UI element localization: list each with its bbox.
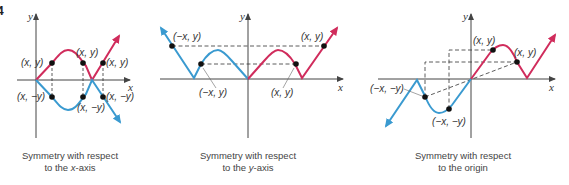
point-label: (x, y) bbox=[271, 87, 293, 98]
y-axis-label: y bbox=[27, 10, 33, 22]
caption-origin-symmetry: Symmetry with respect to the origin bbox=[383, 150, 543, 174]
point-label: (x, y) bbox=[21, 57, 43, 68]
caption-line: to the origin bbox=[383, 162, 543, 174]
y-axis-label: y bbox=[239, 10, 245, 22]
point-label: (−x, −y) bbox=[432, 116, 466, 127]
point bbox=[422, 94, 428, 100]
caption-y-axis-symmetry: Symmetry with respect to the y-axis bbox=[168, 150, 328, 174]
caption-text: -axis bbox=[254, 162, 274, 173]
y-axis-label: y bbox=[462, 10, 468, 22]
point bbox=[490, 47, 496, 53]
panel-y-axis-symmetry: y x (−x, y) (x, y) (−x, y) (x, y) bbox=[160, 10, 343, 138]
caption-text: to the bbox=[44, 162, 70, 173]
panel-origin-symmetry: y x (x, y) (x, y) (−x, −y) (−x, −y) bbox=[370, 10, 555, 138]
point-label: (−x, y) bbox=[173, 31, 201, 42]
caption-text: -axis bbox=[76, 162, 96, 173]
caption-line: Symmetry with respect bbox=[383, 150, 543, 162]
leader-line bbox=[283, 68, 294, 88]
point bbox=[49, 94, 55, 100]
point-label: (x, y) bbox=[514, 47, 536, 58]
x-axis-label: x bbox=[548, 81, 554, 93]
caption-text: to the bbox=[222, 162, 248, 173]
point-label: (x, y) bbox=[76, 47, 98, 58]
point bbox=[514, 59, 520, 65]
panel-x-axis-symmetry: y x (x, y) (x, y) (x, y) (x, −y) (x, −y)… bbox=[17, 10, 134, 138]
point bbox=[446, 106, 452, 112]
caption-line: Symmetry with respect bbox=[168, 150, 328, 162]
point bbox=[100, 94, 106, 100]
point bbox=[80, 94, 86, 100]
point-label: (x, y) bbox=[301, 31, 323, 42]
point bbox=[321, 43, 327, 49]
point-label: (x, −y) bbox=[77, 102, 105, 113]
caption-x-axis-symmetry: Symmetry with respect to the x-axis bbox=[0, 150, 150, 174]
x-axis-label: x bbox=[337, 81, 343, 93]
point-label: (x, −y) bbox=[17, 91, 45, 102]
point bbox=[100, 60, 106, 66]
red-curve bbox=[248, 28, 337, 79]
leader-line bbox=[203, 68, 216, 88]
point-label: (x, y) bbox=[106, 57, 128, 68]
point-label: (−x, y) bbox=[199, 87, 227, 98]
point-label: (−x, −y) bbox=[370, 83, 404, 94]
point bbox=[198, 61, 204, 67]
point bbox=[293, 61, 299, 67]
point bbox=[169, 43, 175, 49]
caption-line: to the y-axis bbox=[168, 162, 328, 174]
point-label: (x, y) bbox=[473, 35, 495, 46]
point bbox=[49, 60, 55, 66]
caption-line: Symmetry with respect bbox=[0, 150, 150, 162]
caption-line: to the x-axis bbox=[0, 162, 150, 174]
point-label: (x, −y) bbox=[106, 91, 134, 102]
point bbox=[80, 60, 86, 66]
